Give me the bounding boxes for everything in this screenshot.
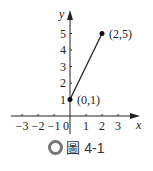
- y-tick-label: 4: [60, 43, 66, 57]
- point-label: (0,1): [77, 93, 100, 107]
- x-tick-label: −1: [48, 119, 61, 133]
- x-tick-label: 0: [63, 119, 69, 133]
- caption-text: 圖 4-1: [66, 140, 104, 156]
- data-point: [100, 31, 105, 36]
- chart: −3−2−1012312345 xy(0,1)(2,5): [0, 0, 153, 135]
- ticks: −3−2−1012312345: [16, 27, 121, 134]
- point-label: (2,5): [109, 27, 132, 41]
- x-tick-label: 2: [99, 119, 105, 133]
- series: [68, 31, 105, 102]
- y-tick-label: 5: [60, 27, 66, 41]
- y-tick-label: 1: [60, 93, 66, 107]
- x-tick-label: −3: [16, 119, 29, 133]
- x-tick-label: 3: [115, 119, 121, 133]
- line-segment: [70, 34, 102, 100]
- x-axis-label: x: [135, 118, 142, 132]
- circle-icon: [48, 140, 63, 155]
- y-tick-label: 3: [60, 60, 66, 74]
- data-point: [68, 97, 73, 102]
- y-tick-label: 2: [60, 76, 66, 90]
- labels: xy(0,1)(2,5): [58, 7, 142, 132]
- x-tick-label: 1: [83, 119, 89, 133]
- figure-caption: 圖 4-1: [0, 137, 153, 157]
- x-tick-label: −2: [32, 119, 45, 133]
- y-axis-arrow: [67, 10, 73, 20]
- y-axis-label: y: [58, 7, 65, 21]
